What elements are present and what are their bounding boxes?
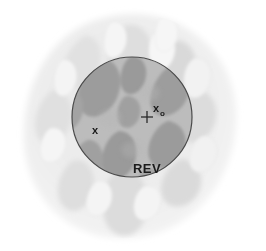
label-point-x0: x xyxy=(153,102,160,114)
label-rev: REV xyxy=(133,161,161,176)
label-point-x: x xyxy=(92,124,99,136)
rev-pore-c xyxy=(121,142,143,158)
rev-diagram-svg: x x o REV xyxy=(0,0,266,251)
label-point-x0-subscript: o xyxy=(160,109,165,118)
rev-pore-a xyxy=(98,109,122,127)
rev-pore-b xyxy=(140,85,160,101)
rev-figure-container: x x o REV xyxy=(0,0,266,251)
